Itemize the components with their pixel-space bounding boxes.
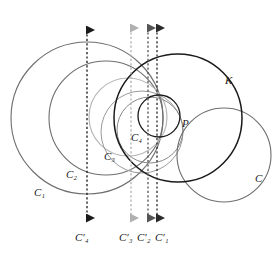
label-C2: C₂ bbox=[66, 168, 77, 180]
label-C4-prime: C′₄ bbox=[75, 231, 89, 243]
label-C4: C₄ bbox=[131, 131, 142, 143]
label-K: K bbox=[224, 74, 233, 86]
label-C1-prime: C′₁ bbox=[155, 231, 169, 243]
label-C1: C₁ bbox=[34, 186, 45, 198]
label-C2-prime: C′₂ bbox=[137, 231, 151, 243]
label-P: P bbox=[181, 117, 189, 129]
canvas-background bbox=[0, 0, 279, 253]
figure-container: C₁ C₂ C₃ C₄ K C P C′₄ C′₃ C′₂ C′₁ bbox=[0, 0, 279, 253]
geometry-diagram: C₁ C₂ C₃ C₄ K C P C′₄ C′₃ C′₂ C′₁ bbox=[0, 0, 279, 253]
label-C: C bbox=[255, 172, 263, 184]
label-C3-prime: C′₃ bbox=[119, 231, 133, 243]
label-C3: C₃ bbox=[104, 150, 115, 162]
